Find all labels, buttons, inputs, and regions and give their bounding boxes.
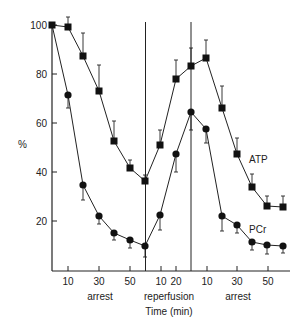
y-tick-40: 40 bbox=[36, 167, 48, 178]
atp-error-bars bbox=[66, 17, 285, 207]
x-tick: 20 bbox=[170, 276, 182, 287]
x-tick: 50 bbox=[262, 276, 274, 287]
x-tick: 30 bbox=[231, 276, 243, 287]
x-tick: 10 bbox=[62, 276, 74, 287]
y-tick-60: 60 bbox=[36, 118, 48, 129]
x-tick: 10 bbox=[201, 276, 213, 287]
y-tick-100: 100 bbox=[30, 20, 47, 31]
y-tick-80: 80 bbox=[36, 69, 48, 80]
x-ticks bbox=[68, 266, 268, 271]
y-axis-label: % bbox=[18, 139, 27, 150]
segment-label-reperfusion: reperfusion bbox=[144, 291, 194, 302]
x-tick: 10 bbox=[155, 276, 167, 287]
chart: 100 80 60 40 20 % 10 30 50 10 20 10 30 5… bbox=[0, 0, 299, 329]
y-tick-20: 20 bbox=[36, 216, 48, 227]
atp-line bbox=[52, 25, 283, 207]
x-tick: 50 bbox=[124, 276, 136, 287]
segment-label-arrest-1: arrest bbox=[87, 291, 113, 302]
pcr-line bbox=[52, 25, 283, 246]
segment-label-arrest-2: arrest bbox=[225, 291, 251, 302]
x-tick: 30 bbox=[93, 276, 105, 287]
x-axis-title: Time (min) bbox=[145, 306, 192, 317]
y-ticks bbox=[52, 25, 57, 221]
pcr-label: PCr bbox=[249, 224, 267, 235]
atp-label: ATP bbox=[249, 154, 268, 165]
